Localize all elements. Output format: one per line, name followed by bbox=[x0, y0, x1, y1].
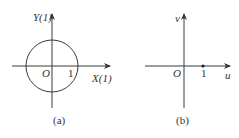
origin-label-a: O bbox=[42, 68, 50, 79]
caption-a: (a) bbox=[53, 115, 65, 126]
y-axis-label-b: v bbox=[175, 13, 180, 24]
origin-label-b: O bbox=[173, 68, 181, 79]
panel-a bbox=[12, 14, 110, 108]
x-axis-label-a: X(1) bbox=[92, 73, 112, 84]
y-axis-label-a: Y(1) bbox=[33, 12, 52, 23]
tick-label-b: 1 bbox=[201, 68, 207, 79]
x-axis-label-b: u bbox=[225, 70, 231, 81]
caption-b: (b) bbox=[176, 115, 189, 126]
panel-b bbox=[145, 14, 230, 108]
tick-label-a: 1 bbox=[68, 68, 74, 79]
